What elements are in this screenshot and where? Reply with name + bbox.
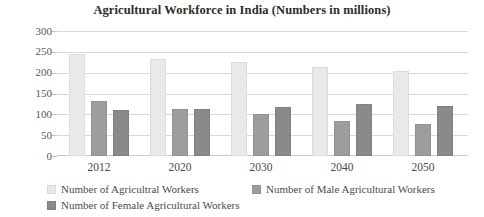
bar [415,124,431,156]
bar-group [69,31,129,156]
bar [253,114,269,156]
x-axis-tick-label: 2030 [226,161,296,173]
legend-item-total-workers: Number of Agricultral Workers [47,183,199,195]
bar [437,106,453,156]
legend-item-female-workers: Number of Female Agricultural Workers [47,199,240,211]
x-axis-tick-label: 2040 [307,161,377,173]
bar [91,101,107,156]
y-axis-tick-mark [52,156,57,157]
legend-item-label: Number of Agricultral Workers [61,183,199,195]
legend-swatch-icon [47,185,56,194]
legend-swatch-icon [252,185,261,194]
x-axis-tick-label: 2050 [388,161,458,173]
bar-group [150,31,210,156]
bar-group [393,31,453,156]
bar-group [312,31,372,156]
bar [275,107,291,156]
y-axis-tick-label: 250 [12,46,52,57]
legend-item-label: Number of Female Agricultural Workers [61,199,240,211]
bar-chart: Agricultural Workforce in India (Numbers… [0,0,484,217]
y-axis-tick-label: 100 [12,109,52,120]
y-axis-tick-label: 150 [12,88,52,99]
chart-title: Agricultural Workforce in India (Numbers… [0,3,484,18]
plot-area [57,31,468,156]
y-axis-tick-label: 200 [12,67,52,78]
y-axis-tick-label: 0 [12,151,52,162]
bar [393,71,409,156]
chart-legend: Number of Agricultral Workers Number of … [0,182,484,216]
bar [150,59,166,156]
y-axis-tick-label: 50 [12,130,52,141]
x-axis-tick-label: 2012 [64,161,134,173]
y-axis-tick-label: 300 [12,26,52,37]
legend-swatch-icon [47,201,56,210]
bar [69,54,85,156]
bar [172,109,188,156]
legend-item-label: Number of Male Agricultural Workers [266,183,435,195]
bar [312,67,328,156]
legend-item-male-workers: Number of Male Agricultural Workers [252,183,435,195]
x-axis-tick-label: 2020 [145,161,215,173]
bar [231,62,247,156]
bar [113,110,129,156]
bar [194,109,210,156]
bar [334,121,350,156]
bar-group [231,31,291,156]
bar [356,104,372,156]
